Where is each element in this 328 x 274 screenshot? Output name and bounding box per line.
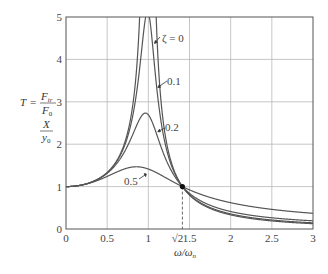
y-label-den: F0 bbox=[41, 104, 53, 118]
annotation-zeta-0.2: 0.2 bbox=[165, 121, 179, 133]
y-label-T: T bbox=[20, 96, 27, 108]
annotation-zeta-0: ζ = 0 bbox=[162, 32, 184, 45]
x-tick-label: 0 bbox=[63, 232, 69, 244]
x-tick-label: 1 bbox=[146, 232, 152, 244]
y-tick-labels: 012345 bbox=[57, 11, 63, 235]
y-tick-label: 4 bbox=[57, 53, 63, 65]
transmissibility-chart: 00.51√21.522.53 012345 ζ = 0 0.1 0.2 0.5… bbox=[0, 0, 328, 274]
annotation-zeta-0.1: 0.1 bbox=[167, 75, 181, 87]
x-tick-label: 2 bbox=[228, 232, 234, 244]
y-tick-label: 0 bbox=[57, 223, 63, 235]
y-tick-label: 3 bbox=[57, 96, 63, 108]
y-label-num: Ftr bbox=[40, 90, 53, 104]
crossover-point bbox=[180, 184, 185, 189]
grid-lines bbox=[66, 17, 313, 229]
y-label-equals: = bbox=[30, 96, 36, 108]
y-axis-label: T = Ftr F0 X y0 bbox=[20, 90, 56, 145]
annotation-arrows bbox=[139, 37, 167, 179]
x-tick-label: 2.5 bbox=[265, 232, 279, 244]
y-label2-den: y0 bbox=[41, 131, 51, 145]
y-tick-label: 2 bbox=[57, 138, 63, 150]
x-tick-label: 1.5 bbox=[183, 232, 197, 244]
y-tick-label: 1 bbox=[57, 181, 63, 193]
y-label2-num: X bbox=[42, 118, 51, 130]
x-tick-label: √2 bbox=[172, 232, 184, 244]
x-tick-label: 0.5 bbox=[100, 232, 114, 244]
x-axis-label: ω/ωn bbox=[174, 246, 197, 260]
x-tick-label: 3 bbox=[310, 232, 316, 244]
y-tick-label: 5 bbox=[57, 11, 63, 23]
annotation-zeta-0.5: 0.5 bbox=[124, 175, 138, 187]
x-tick-labels: 00.51√21.522.53 bbox=[63, 232, 316, 244]
